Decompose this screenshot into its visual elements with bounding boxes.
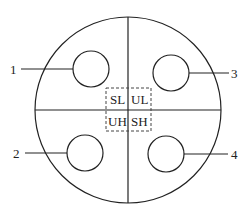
pin-3-circle [153,55,189,91]
pin-2-circle [67,135,103,171]
label-uh: UH [108,114,127,129]
pin-4-circle [148,136,184,172]
pin-4-label: 4 [231,147,238,162]
label-sl: SL [110,92,125,107]
connector-diagram: SL UL UH SH 1 2 3 4 [0,0,252,220]
label-sh: SH [131,114,148,129]
diagram-canvas: SL UL UH SH 1 2 3 4 [0,0,252,220]
pin-2-label: 2 [13,146,20,161]
pin-3-label: 3 [231,66,238,81]
label-ul: UL [131,92,148,107]
pin-1-label: 1 [10,62,17,77]
pin-1-circle [73,51,109,87]
